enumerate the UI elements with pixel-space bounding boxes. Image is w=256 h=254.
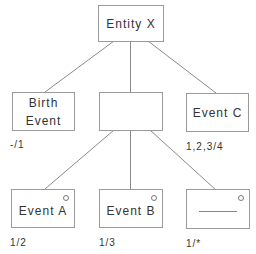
middle-node[interactable] (99, 92, 163, 131)
entity-x-label: Entity X (106, 15, 155, 33)
event-a-label: Event A (19, 202, 67, 220)
event-b-cardinality: 1/3 (99, 237, 116, 248)
edge-entity-to-event-c (148, 41, 216, 93)
event-b-node[interactable]: Event B (99, 189, 163, 228)
birth-event-label-line2: Event (26, 112, 62, 130)
event-a-node[interactable]: Event A (11, 189, 75, 228)
edge-middle-to-event-a (45, 130, 114, 189)
birth-event-label-line1: Birth (29, 94, 59, 112)
entity-x-node[interactable]: Entity X (98, 5, 164, 42)
unnamed-event-cardinality: 1/* (186, 238, 201, 249)
circle-marker-icon (151, 195, 157, 201)
circle-marker-icon (238, 195, 244, 201)
edge-entity-to-birth (45, 41, 114, 92)
unnamed-event-node[interactable] (186, 189, 250, 229)
event-c-label: Event C (193, 104, 243, 122)
event-c-node[interactable]: Event C (186, 93, 249, 132)
event-c-cardinality: 1,2,3/4 (186, 141, 224, 152)
circle-marker-icon (63, 195, 69, 201)
event-b-label: Event B (106, 202, 155, 220)
birth-event-cardinality: -/1 (10, 139, 25, 150)
event-a-cardinality: 1/2 (10, 237, 27, 248)
edge-middle-to-unnamed (150, 130, 216, 190)
placeholder-line (199, 211, 237, 212)
birth-event-node[interactable]: Birth Event (12, 92, 75, 131)
